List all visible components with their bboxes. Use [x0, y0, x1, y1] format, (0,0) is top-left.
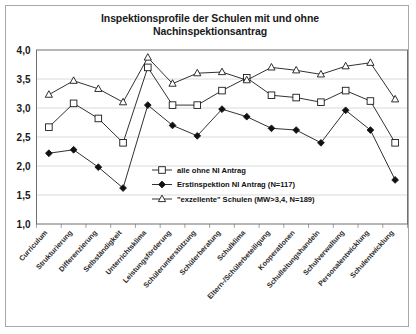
data-point-marker: [293, 94, 300, 101]
data-point-marker: [119, 98, 126, 105]
data-point-marker: [318, 99, 325, 106]
data-point-marker: [70, 146, 77, 153]
gridlines-group: [37, 79, 408, 195]
y-tick-label: 1,0: [17, 219, 31, 230]
y-tick-label: 2,5: [17, 132, 31, 143]
data-point-marker: [45, 150, 52, 157]
data-point-marker: [318, 139, 325, 146]
x-axis-category-labels: CurriculumStrukturierungDifferenzierungS…: [17, 228, 396, 301]
data-point-marker: [45, 91, 52, 98]
data-point-marker: [367, 59, 374, 66]
legend-label: alle ohne NI Antrag: [177, 166, 246, 175]
legend-label: Erstinspektion NI Antrag (N=117): [177, 180, 296, 189]
line-chart-plot: 4,03,53,02,52,01,51,0 CurriculumStruktur…: [0, 0, 416, 334]
y-tick-label: 2,0: [17, 161, 31, 172]
data-point-marker: [367, 98, 374, 105]
data-point-marker: [95, 115, 102, 122]
data-point-marker: [120, 140, 127, 147]
data-point-marker: [243, 113, 250, 120]
data-point-marker: [268, 125, 275, 132]
y-tick-label: 4,0: [17, 45, 31, 56]
y-axis-tick-labels: 4,03,53,02,52,01,51,0: [17, 45, 31, 230]
data-point-marker: [144, 54, 151, 61]
data-point-marker: [268, 92, 275, 99]
data-point-marker: [293, 127, 300, 134]
legend-label: "exzellente" Schulen (MW>3,4, N=189): [177, 195, 315, 204]
data-point-marker: [219, 87, 226, 94]
data-point-marker: [70, 100, 77, 107]
legend-marker: [159, 181, 166, 188]
legend-marker: [159, 167, 166, 174]
x-axis-tick-marks: [37, 224, 408, 228]
y-tick-label: 1,5: [17, 190, 31, 201]
data-point-marker: [268, 64, 275, 71]
data-point-marker: [70, 77, 77, 84]
y-tick-label: 3,0: [17, 103, 31, 114]
legend-marker: [158, 195, 165, 202]
chart-figure: Inspektionsprofile der Schulen mit und o…: [0, 0, 416, 334]
data-series: [46, 64, 399, 146]
data-point-marker: [218, 68, 225, 75]
y-tick-label: 3,5: [17, 74, 31, 85]
data-point-marker: [194, 69, 201, 76]
data-point-marker: [194, 102, 201, 109]
data-point-marker: [46, 124, 53, 131]
chart-legend: alle ohne NI AntragErstinspektion NI Ant…: [152, 166, 315, 204]
data-point-marker: [169, 102, 176, 109]
x-category-label: Schulentwicklung: [348, 228, 396, 279]
data-point-marker: [342, 87, 349, 94]
data-point-marker: [392, 140, 399, 147]
data-point-marker: [145, 64, 152, 71]
data-point-marker: [392, 177, 399, 184]
